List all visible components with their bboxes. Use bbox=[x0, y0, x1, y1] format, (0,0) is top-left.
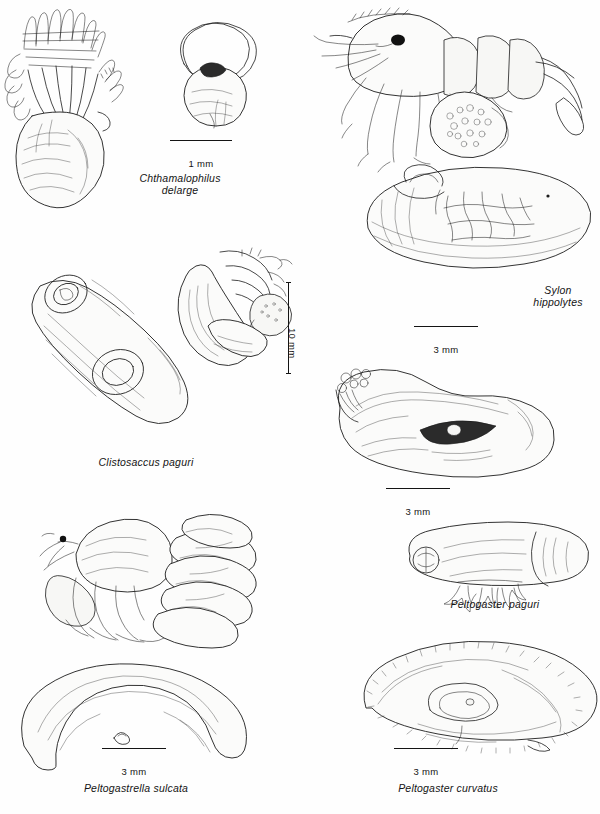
figure-peltogaster-paguri-externa-large bbox=[312, 356, 568, 478]
scale-bar-3mm-curvatus: 3 mm bbox=[394, 748, 458, 764]
scale-bar-3mm-sylon-label: 3 mm bbox=[434, 344, 459, 355]
scale-bar-3mm-peltogaster-paguri: 3 mm bbox=[386, 488, 450, 504]
scale-bar-3mm-peltogastrella: 3 mm bbox=[102, 748, 166, 764]
caption-sylon: Sylon hippolytes bbox=[518, 284, 598, 308]
caption-clistosaccus: Clistosaccus paguri bbox=[56, 456, 236, 468]
scale-bar-3mm-peltogastrella-label: 3 mm bbox=[122, 766, 147, 777]
caption-peltogaster-curvatus: Peltogaster curvatus bbox=[348, 782, 548, 794]
scale-bar-1mm: 1 mm bbox=[170, 140, 232, 156]
caption-peltogaster-paguri: Peltogaster paguri bbox=[400, 598, 590, 610]
figure-chthamalophilus-externa-isolated bbox=[160, 18, 270, 148]
scale-bar-3mm-sylon: 3 mm bbox=[414, 326, 478, 342]
figure-sylon-externa-enlarged bbox=[352, 160, 600, 290]
caption-chthamalophilus: Chthamalophilus delarge bbox=[110, 172, 250, 196]
scale-bar-1mm-label: 1 mm bbox=[189, 158, 214, 169]
figure-peltogaster-curvatus-externa bbox=[352, 636, 600, 758]
illustration-plate: 1 mm Chthamalophilus delarge bbox=[0, 0, 600, 814]
figure-peltogaster-paguri-externa-small bbox=[396, 516, 596, 608]
figure-clistosaccus-on-host bbox=[168, 250, 298, 370]
figure-peltogastrella-host-hermit-crab bbox=[20, 512, 282, 654]
figure-sylon-host-shrimp bbox=[292, 2, 598, 177]
caption-peltogastrella-sulcata: Peltogastrella sulcata bbox=[36, 782, 236, 794]
scale-bar-10mm-label: 10 mm bbox=[287, 328, 298, 359]
scale-bar-3mm-curvatus-label: 3 mm bbox=[414, 766, 439, 777]
scale-bar-10mm: 10 mm bbox=[288, 282, 289, 374]
